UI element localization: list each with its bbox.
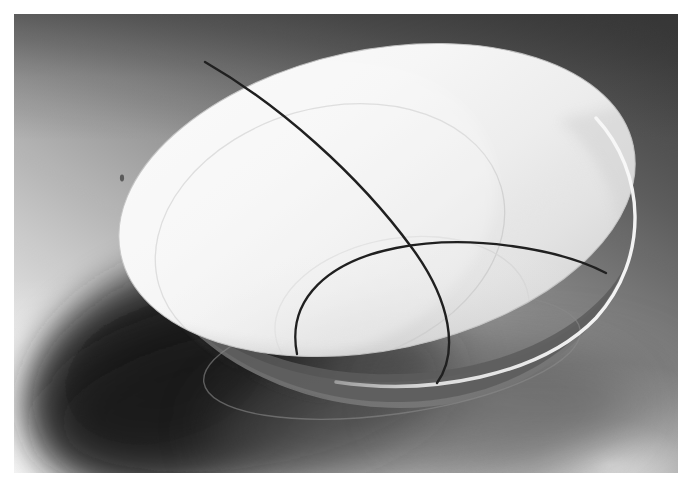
photo-image-area	[0, 0, 690, 485]
photo-frame: A white bowl photographed from above and…	[0, 0, 690, 485]
film-grain	[14, 14, 678, 473]
bowl-photograph	[0, 0, 690, 485]
